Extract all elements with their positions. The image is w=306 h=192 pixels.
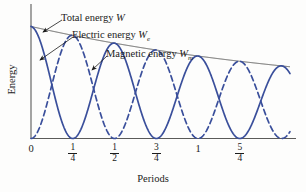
y-axis-label: Energy bbox=[6, 56, 17, 104]
magnetic-energy-symbol: W bbox=[179, 48, 188, 59]
electric-energy-arrow bbox=[40, 37, 73, 60]
x-tick-3-4: 34 bbox=[141, 143, 171, 163]
total-energy-label-text: Total energy bbox=[61, 12, 113, 23]
total-energy-arrow bbox=[43, 20, 62, 32]
x-tick-1-4: 14 bbox=[58, 143, 88, 163]
total-energy-label: Total energy W bbox=[61, 12, 125, 26]
curve-group bbox=[31, 26, 290, 138]
magnetic-energy-label-text: Magnetic energy bbox=[106, 48, 177, 59]
total-energy-symbol: W bbox=[116, 12, 125, 23]
x-axis-label: Periods bbox=[0, 173, 306, 184]
electric-energy-label-text: Electric energy bbox=[72, 29, 136, 40]
x-tick-5-4: 54 bbox=[225, 143, 255, 163]
callout-leader-lines bbox=[40, 20, 107, 70]
magnetic-energy-label: Magnetic energy Wm bbox=[106, 48, 193, 62]
energy-oscillation-chart: Total energy W Electric energy We Magnet… bbox=[0, 0, 306, 192]
electric-energy-subscript: e bbox=[147, 35, 150, 43]
magnetic-energy-subscript: m bbox=[188, 54, 193, 62]
electric-energy-curve bbox=[31, 26, 290, 138]
x-tick-0: 0 bbox=[16, 143, 46, 154]
x-tick-1: 1 bbox=[183, 143, 213, 154]
electric-energy-symbol: W bbox=[138, 29, 147, 40]
electric-energy-label: Electric energy We bbox=[72, 29, 150, 43]
x-tick-1-2: 12 bbox=[100, 143, 130, 163]
